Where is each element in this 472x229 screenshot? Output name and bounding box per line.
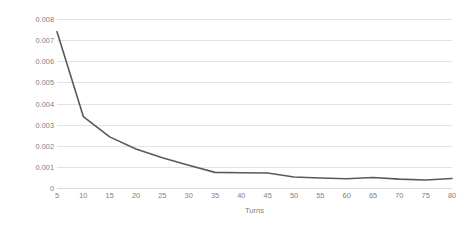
y-tick-label: 0.004 (18, 99, 54, 108)
plot-area (57, 19, 452, 188)
x-tick-label: 80 (437, 191, 467, 200)
y-tick-label: 0.002 (18, 141, 54, 150)
y-axis-title: ApQuatEn (0, 0, 14, 229)
gridline (57, 188, 452, 189)
series-line-apquaten (57, 19, 452, 188)
y-tick-label: 0.007 (18, 36, 54, 45)
y-tick-label: 0.003 (18, 120, 54, 129)
y-tick-label: 0.001 (18, 162, 54, 171)
y-tick-label: 0.005 (18, 78, 54, 87)
y-tick-label: 0.008 (18, 15, 54, 24)
series-polyline (57, 32, 452, 180)
chart-container: ApQuatEn 00.0010.0020.0030.0040.0050.006… (0, 0, 472, 229)
x-axis-tick-labels: 5101520253035404550556065707580 (57, 191, 452, 205)
y-tick-label: 0.006 (18, 57, 54, 66)
x-axis-title: Turns (57, 206, 452, 215)
